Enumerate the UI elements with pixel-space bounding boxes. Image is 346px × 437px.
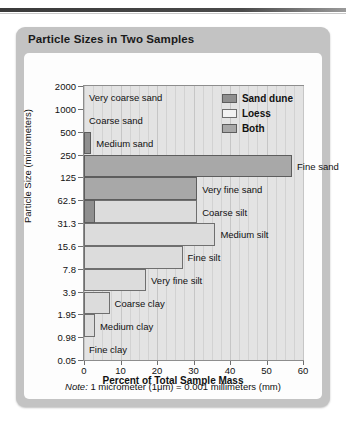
bar-loess xyxy=(84,246,183,269)
y-axis-tick-label: 0.05 xyxy=(24,355,76,366)
figure-note: Note: 1 micrometer (1μm) = 0.001 millime… xyxy=(24,381,322,392)
y-axis-tick-label: 15.6 xyxy=(24,240,76,251)
bar-row: Very fine sand xyxy=(84,177,303,200)
chart-panel: Particle Size (micrometers) 200010005002… xyxy=(24,53,322,399)
y-axis-tick-label: 7.8 xyxy=(24,263,76,274)
bar-category-label: Fine silt xyxy=(188,252,221,263)
bar-row: Fine clay xyxy=(84,337,303,360)
legend-label-both: Both xyxy=(242,123,265,134)
bar-sand-dune xyxy=(84,132,91,155)
bar-row: Fine sand xyxy=(84,155,303,178)
legend-label-sand-dune: Sand dune xyxy=(242,93,293,104)
y-axis-tick-label: 250 xyxy=(24,149,76,160)
figure-page: Particle Sizes in Two Samples Particle S… xyxy=(0,0,346,437)
bar-category-label: Medium sand xyxy=(96,138,153,149)
bar-row: Very fine silt xyxy=(84,269,303,292)
figure-card: Particle Sizes in Two Samples Particle S… xyxy=(16,27,330,407)
bar-category-label: Coarse silt xyxy=(202,206,247,217)
bar-row: Medium clay xyxy=(84,314,303,337)
grid-line xyxy=(303,86,304,360)
bar-loess xyxy=(84,223,215,246)
figure-title: Particle Sizes in Two Samples xyxy=(28,33,194,45)
bar-both xyxy=(84,177,197,200)
legend-label-loess: Loess xyxy=(242,108,271,119)
y-axis-tick-label: 125 xyxy=(24,172,76,183)
page-top-rule-hairline xyxy=(0,13,346,14)
bar-loess xyxy=(84,292,110,315)
bar-row: Coarse clay xyxy=(84,292,303,315)
y-axis-tick-label: 1000 xyxy=(24,103,76,114)
bar-row: Fine silt xyxy=(84,246,303,269)
bar-both xyxy=(84,155,292,178)
y-axis-tick-label: 2000 xyxy=(24,81,76,92)
bar-loess xyxy=(84,200,197,223)
plot-area: Very coarse sandCoarse sandMedium sandFi… xyxy=(83,85,304,361)
y-axis-tick-label: 62.5 xyxy=(24,195,76,206)
y-axis-tick-label: 31.3 xyxy=(24,218,76,229)
legend-swatch-both xyxy=(222,124,237,133)
legend-item-both: Both xyxy=(222,122,293,135)
bar-category-label: Medium clay xyxy=(100,320,153,331)
legend-item-loess: Loess xyxy=(222,107,293,120)
chart-legend: Sand dune Loess Both xyxy=(222,92,293,137)
bar-row: Coarse silt xyxy=(84,200,303,223)
legend-item-sand-dune: Sand dune xyxy=(222,92,293,105)
bar-category-label: Very fine silt xyxy=(151,275,202,286)
y-axis-tick-label: 0.98 xyxy=(24,332,76,343)
bar-category-label: Coarse clay xyxy=(115,297,165,308)
legend-swatch-sand-dune xyxy=(222,94,237,103)
bar-loess xyxy=(84,314,95,337)
bar-sand-dune xyxy=(84,200,95,223)
figure-note-prefix: Note: xyxy=(65,381,88,392)
y-axis-tick-label: 1.95 xyxy=(24,309,76,320)
y-axis-tick-label: 500 xyxy=(24,126,76,137)
bar-category-label: Medium silt xyxy=(220,229,268,240)
bar-category-label: Fine clay xyxy=(89,343,127,354)
bar-row: Medium silt xyxy=(84,223,303,246)
bar-loess xyxy=(84,269,146,292)
y-axis-tick-label: 3.9 xyxy=(24,286,76,297)
figure-note-text: 1 micrometer (1μm) = 0.001 millimeters (… xyxy=(88,381,281,392)
page-top-rule xyxy=(0,8,346,12)
bar-category-label: Coarse sand xyxy=(89,115,143,126)
legend-swatch-loess xyxy=(222,109,237,118)
bar-category-label: Very fine sand xyxy=(202,183,262,194)
bar-category-label: Fine sand xyxy=(297,160,339,171)
bar-category-label: Very coarse sand xyxy=(89,92,162,103)
